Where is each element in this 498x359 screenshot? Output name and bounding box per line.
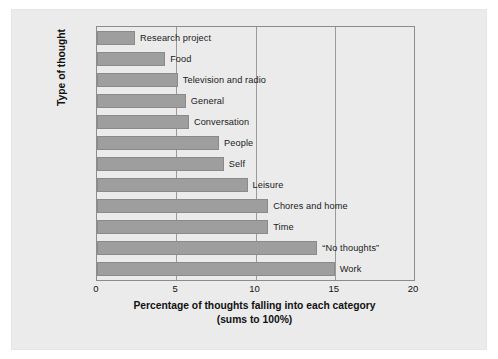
bar-label: Television and radio [183, 75, 266, 85]
bar [97, 241, 317, 255]
bar-label: Leisure [253, 180, 284, 190]
bar-label: Work [340, 264, 362, 274]
bar-row: Television and radio [97, 73, 414, 87]
bar-label: General [191, 96, 224, 106]
bar-row: Work [97, 262, 414, 276]
plot-area: Research projectFoodTelevision and radio… [96, 26, 415, 281]
plot-inner: Research projectFoodTelevision and radio… [97, 27, 414, 280]
bar [97, 199, 268, 213]
bar-row: Self [97, 157, 414, 171]
y-axis-title: Type of thought [56, 29, 67, 106]
bar-label: “No thoughts” [322, 243, 379, 253]
bar [97, 73, 178, 87]
bar-label: People [224, 138, 253, 148]
bar [97, 157, 224, 171]
bar-row: Chores and home [97, 199, 414, 213]
bar-label: Time [273, 222, 293, 232]
bar-row: Conversation [97, 115, 414, 129]
bar [97, 115, 189, 129]
bar-row: General [97, 94, 414, 108]
x-tick-label: 15 [328, 283, 339, 294]
bar [97, 94, 186, 108]
x-tick-label: 5 [173, 283, 178, 294]
bar-label: Chores and home [273, 201, 348, 211]
bar [97, 262, 335, 276]
bar-row: Leisure [97, 178, 414, 192]
bar [97, 136, 219, 150]
bar [97, 220, 268, 234]
x-tick-label: 20 [408, 283, 419, 294]
bar-row: Time [97, 220, 414, 234]
bar-row: People [97, 136, 414, 150]
bar-label: Conversation [194, 117, 249, 127]
bar-row: “No thoughts” [97, 241, 414, 255]
bar-row: Food [97, 52, 414, 66]
bar-label: Self [229, 159, 245, 169]
bar-row: Research project [97, 31, 414, 45]
bar [97, 31, 135, 45]
x-tick-label: 10 [249, 283, 260, 294]
bar [97, 52, 165, 66]
bar-label: Research project [140, 33, 211, 43]
x-tick-label: 0 [93, 283, 98, 294]
x-axis-title-line-1: Percentage of thoughts falling into each… [96, 299, 413, 313]
chart-figure: Type of thought Research projectFoodTele… [0, 0, 498, 359]
x-axis-title-line-2: (sums to 100%) [96, 313, 413, 327]
bar [97, 178, 248, 192]
bar-label: Food [170, 54, 191, 64]
x-axis-title: Percentage of thoughts falling into each… [96, 299, 413, 327]
